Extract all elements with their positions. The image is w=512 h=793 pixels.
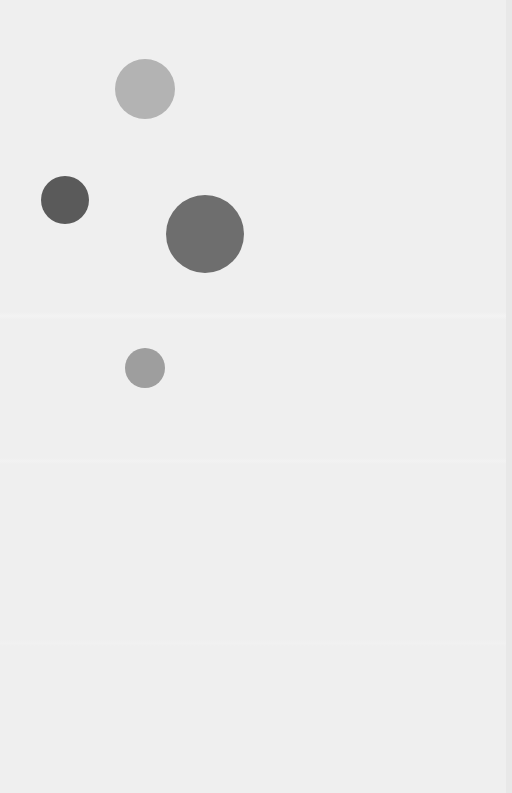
right-edge-shadow [506, 0, 512, 793]
circle-top-light [115, 59, 175, 119]
circle-large-medium [166, 195, 244, 273]
canvas-background [0, 0, 512, 793]
circle-left-dark [41, 176, 89, 224]
circle-small-bottom [125, 348, 165, 388]
